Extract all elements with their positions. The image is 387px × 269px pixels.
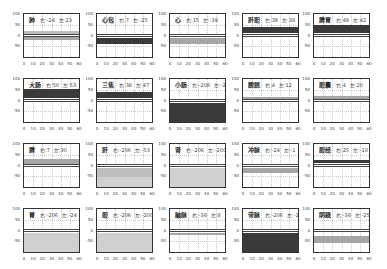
plot-area: 三焦右:38左:47 (96, 78, 153, 123)
y-tick-label: 0 (7, 229, 20, 233)
grid-line (243, 46, 298, 47)
left-value: 左:12 (279, 82, 292, 88)
chart-panel: 100500-50脑脉右:-38左:80102030405060 (153, 205, 227, 269)
right-value: 右:38 (119, 82, 132, 88)
x-tick-label: 60 (364, 191, 374, 196)
grid-line (314, 176, 369, 177)
chart-title: 脾右:7左:30 (29, 145, 71, 154)
y-tick-label: 0 (297, 229, 310, 233)
y-tick-label: 50 (297, 88, 310, 92)
y-tick-label: -50 (297, 239, 310, 243)
left-value: 左:23 (59, 17, 72, 23)
reference-band (24, 99, 79, 102)
left-value: 左:-200 (208, 147, 226, 153)
value-band (314, 25, 369, 33)
reference-band (170, 229, 225, 232)
reference-band (314, 164, 369, 167)
chart-title: 小肠右:-208左:-208 (175, 80, 226, 89)
chart-panel: 100500-50心包右:7左:-250102030405060 (80, 10, 154, 75)
y-tick-label: 0 (226, 34, 239, 38)
reference-band (170, 99, 225, 102)
chart-title: 肾右:-206左:-200 (175, 145, 226, 154)
plot-area: 小肠右:-208左:-208 (169, 78, 226, 123)
organ-name: 冲脉 (248, 146, 260, 153)
chart-title: 阴跷右:-38左:-25 (319, 210, 370, 219)
y-tick-label: 50 (80, 153, 93, 157)
y-tick-label: -50 (7, 44, 20, 48)
x-tick-label: 60 (364, 126, 374, 131)
organ-name: 肾 (175, 146, 181, 153)
organ-name: 脾 (29, 146, 35, 153)
value-band (24, 233, 79, 252)
right-value: 右:-206 (265, 212, 283, 218)
chart-panel: 100500-50胆右:-206左:-2000102030405060 (80, 205, 154, 269)
chart-panel: 100500-50大肠右:50左:530102030405060 (7, 75, 81, 140)
value-band (243, 233, 298, 252)
plot-area: 脾右:7左:30 (23, 143, 80, 188)
right-value: 右:-206 (113, 147, 131, 153)
y-tick-label: 100 (226, 207, 239, 211)
y-tick-label: 0 (7, 99, 20, 103)
y-tick-label: 0 (80, 229, 93, 233)
left-value: 左:-39 (203, 17, 218, 23)
chart-title: 心右:15左:-39 (175, 15, 222, 24)
grid-line (314, 220, 369, 221)
y-tick-label: 50 (153, 88, 166, 92)
grid-line (170, 155, 225, 156)
reference-band (24, 164, 79, 167)
reference-band (97, 229, 152, 232)
left-value: 左:-25 (355, 212, 370, 218)
plot-area: 肺右:-24左:23 (23, 13, 80, 58)
chart-panel: 100500-50胆经右:25左:-100102030405060 (297, 140, 371, 205)
chart-title: 肝右:-206左:-53 (102, 145, 153, 154)
right-value: 右:-206 (40, 212, 58, 218)
y-tick-label: 100 (226, 77, 239, 81)
y-tick-label: 0 (226, 99, 239, 103)
right-value: 右:-206 (113, 212, 131, 218)
y-tick-label: -50 (153, 44, 166, 48)
y-tick-label: 100 (7, 12, 20, 16)
y-tick-label: 100 (80, 207, 93, 211)
reference-band (314, 99, 369, 102)
grid-line (243, 220, 298, 221)
organ-name: 肺 (29, 16, 35, 23)
chart-title: 胆右:-206左:-200 (102, 210, 153, 219)
y-tick-label: -50 (226, 239, 239, 243)
grid-line (97, 25, 152, 26)
y-tick-label: 100 (297, 12, 310, 16)
chart-panel: 100500-50心右:15左:-390102030405060 (153, 10, 227, 75)
organ-name: 心包 (102, 16, 114, 23)
right-value: 右:50 (46, 82, 59, 88)
y-tick-label: -50 (7, 239, 20, 243)
grid-line (314, 111, 369, 112)
y-tick-label: 50 (80, 23, 93, 27)
right-value: 右:49 (336, 17, 349, 23)
chart-title: 脾胃右:49左:42 (319, 15, 370, 24)
plot-area: 膀胱右:4左:12 (242, 78, 299, 123)
chart-panel: 100500-50膀胱右:4左:120102030405060 (226, 75, 300, 140)
y-tick-label: 100 (297, 207, 310, 211)
right-value: 右:38 (265, 17, 278, 23)
organ-name: 胆 (102, 211, 108, 218)
y-tick-label: -50 (7, 109, 20, 113)
left-value: 左:42 (353, 17, 366, 23)
grid-line (170, 25, 225, 26)
chart-panel: 100500-50三焦右:38左:470102030405060 (80, 75, 154, 140)
organ-name: 脾胃 (319, 16, 331, 23)
y-tick-label: 100 (153, 77, 166, 81)
plot-area: 肾右:-206左:-200 (169, 143, 226, 188)
y-tick-label: -50 (153, 109, 166, 113)
left-value: 左:20 (350, 82, 363, 88)
plot-area: 胆经右:25左:-10 (313, 143, 370, 188)
value-band (170, 168, 225, 187)
value-band (170, 38, 225, 44)
y-tick-label: 0 (153, 99, 166, 103)
value-band (243, 27, 298, 33)
grid-line (243, 111, 298, 112)
right-value: 右:-24 (265, 147, 280, 153)
organ-name: 三焦 (102, 81, 114, 88)
y-tick-label: 50 (153, 153, 166, 157)
reference-band (314, 229, 369, 232)
chart-panel: 100500-50小肠右:-208左:-2080102030405060 (153, 75, 227, 140)
grid-line (243, 155, 298, 156)
